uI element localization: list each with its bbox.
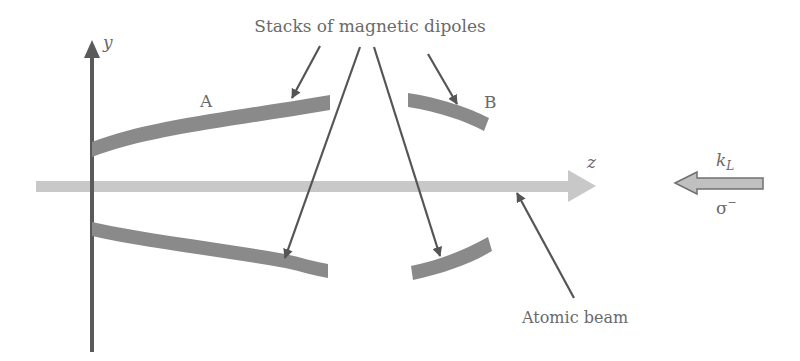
laser-wavevector-label: kL: [716, 150, 734, 173]
atomic-beam-arrow: [36, 170, 596, 202]
laser-arrow: [675, 172, 763, 194]
atomic-beam-label: Atomic beam: [521, 308, 628, 327]
stack-a-lower: [92, 222, 328, 278]
stack-a-label: A: [199, 91, 213, 111]
stack-b-label: B: [484, 92, 497, 112]
stack-b-lower: [411, 237, 492, 280]
y-axis: [84, 40, 100, 352]
zeeman-slower-diagram: Stacks of magnetic dipoles y z A B Atomi…: [0, 0, 800, 361]
title-label: Stacks of magnetic dipoles: [254, 16, 486, 36]
laser-k: k: [716, 150, 726, 170]
laser-polarization-label: σ−: [716, 196, 737, 218]
laser-sigma: σ: [716, 198, 728, 218]
atomic-beam-pointer: [517, 193, 574, 298]
laser-k-subscript: L: [725, 159, 734, 173]
stack-b-upper: [408, 93, 489, 131]
laser-sigma-sup: −: [728, 196, 737, 209]
dipole-pointers: [285, 46, 457, 258]
y-axis-label: y: [102, 32, 113, 52]
z-axis-label: z: [586, 152, 597, 172]
